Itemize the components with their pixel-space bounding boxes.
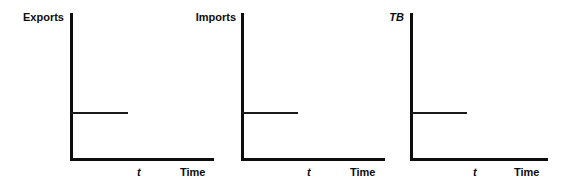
imports-y-axis (241, 13, 244, 161)
trade-balance-t-tick-label: t (473, 166, 477, 178)
imports-x-axis-label: Time (350, 166, 375, 178)
exports-t-tick-label: t (137, 166, 141, 178)
imports-t-tick-label: t (307, 166, 311, 178)
trade-balance-x-axis-label: Time (514, 166, 539, 178)
imports-y-axis-label: Imports (180, 11, 236, 23)
imports-x-axis (241, 158, 385, 161)
exports-y-axis-label: Exports (6, 11, 64, 23)
imports-level-line (242, 112, 298, 114)
trade-balance-x-axis (410, 158, 548, 161)
exports-x-axis (70, 158, 214, 161)
exports-x-axis-label: Time (180, 166, 205, 178)
exports-y-axis (70, 13, 73, 161)
trade-balance-y-axis (410, 13, 413, 161)
exports-level-line (71, 112, 128, 114)
trade-balance-level-line (411, 112, 467, 114)
trade-balance-y-axis-label: TB (372, 11, 404, 23)
trade-balance-figure: Exports t Time Imports t Time TB t Time (0, 0, 574, 185)
